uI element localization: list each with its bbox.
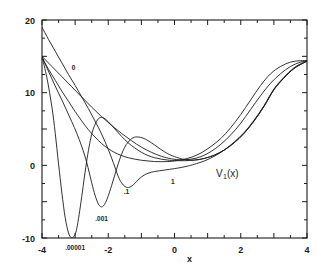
plot-frame xyxy=(42,20,307,238)
svg-text:V: V xyxy=(216,168,223,179)
curve-label-p00001: .00001 xyxy=(65,244,85,251)
x-tick-label: -2 xyxy=(104,245,112,255)
plot-border xyxy=(42,20,307,238)
figure-container: -4-2024-1001020x 0.00001.001.11V1(x) xyxy=(0,0,321,270)
y-tick-label: 10 xyxy=(25,88,35,98)
x-tick-label: 4 xyxy=(304,245,309,255)
x-tick-label: 2 xyxy=(238,245,243,255)
function-label: V1(x) xyxy=(216,168,239,180)
y-tick-label: -10 xyxy=(22,234,35,244)
curve-0 xyxy=(42,56,307,160)
curve-label-p1: .1 xyxy=(124,188,130,195)
curve-set xyxy=(42,27,307,238)
axis-ticks xyxy=(42,20,307,238)
y-tick-label: 20 xyxy=(25,16,35,26)
x-axis-title: x xyxy=(187,254,192,264)
axis-tick-labels: -4-2024-1001020x xyxy=(22,16,310,265)
plot-canvas: -4-2024-1001020x 0.00001.001.11V1(x) xyxy=(0,0,321,270)
curve-label-1: 1 xyxy=(171,178,175,185)
x-tick-label: -4 xyxy=(38,245,46,255)
x-tick-label: 0 xyxy=(172,245,177,255)
curve-label-p001: .001 xyxy=(95,215,108,222)
y-tick-label: 0 xyxy=(30,161,35,171)
curve-p1 xyxy=(42,27,307,187)
svg-text:(x): (x) xyxy=(227,168,239,179)
curve-label-0: 0 xyxy=(72,64,76,71)
